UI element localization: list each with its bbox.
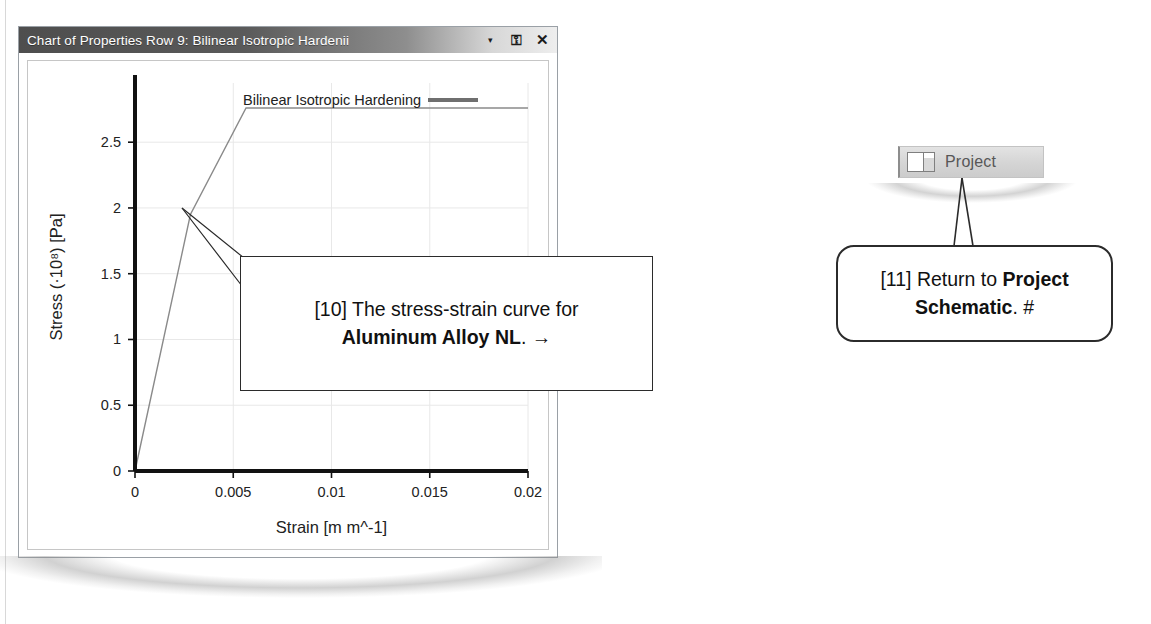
svg-text:Strain [m m^-1]: Strain [m m^-1]: [276, 518, 387, 536]
callout-chart-line1b: The stress-strain curve for: [352, 298, 578, 320]
callout-return-project-text: [11] Return to Project Schematic. #: [868, 266, 1080, 321]
svg-text:1.5: 1.5: [101, 266, 121, 282]
page-edge-rule: [5, 0, 6, 624]
close-button[interactable]: ✕: [529, 28, 555, 52]
callout-project-line1: Return to: [917, 268, 1003, 290]
scan-shadow-project: [866, 183, 1078, 221]
chart-window-title: Chart of Properties Row 9: Bilinear Isot…: [27, 33, 349, 48]
chevron-down-glyph: ▾: [488, 35, 493, 45]
project-callout-pointer: [930, 178, 1000, 248]
callout-chart-line1: [10]: [314, 298, 352, 320]
chart-titlebar: Chart of Properties Row 9: Bilinear Isot…: [19, 27, 557, 53]
svg-text:0.5: 0.5: [101, 397, 121, 413]
svg-text:0: 0: [113, 463, 121, 479]
close-icon: ✕: [536, 31, 549, 49]
svg-text:0.015: 0.015: [412, 484, 448, 500]
svg-text:0: 0: [131, 484, 139, 500]
svg-text:0.005: 0.005: [215, 484, 251, 500]
project-button-label: Project: [945, 153, 996, 171]
callout-project-bold1: Project: [1003, 268, 1069, 290]
svg-text:2: 2: [113, 200, 121, 216]
scan-shadow-bottom: [0, 556, 602, 612]
callout-stress-strain-text: [10] The stress-strain curve for Aluminu…: [300, 296, 592, 351]
chevron-down-icon[interactable]: ▾: [477, 28, 503, 52]
project-button[interactable]: Project: [898, 146, 1044, 178]
svg-text:0.02: 0.02: [514, 484, 542, 500]
svg-text:Stress (·10⁸) [Pa]: Stress (·10⁸) [Pa]: [47, 213, 65, 340]
callout-project-bold2: Schematic: [915, 296, 1013, 318]
callout-project-prefix: [11]: [880, 268, 917, 290]
titlebar-buttons: ▾ ⚿ ✕: [477, 28, 555, 52]
pin-icon: ⚿: [511, 32, 522, 49]
callout-return-project: [11] Return to Project Schematic. #: [836, 245, 1113, 342]
pin-button[interactable]: ⚿: [503, 28, 529, 52]
callout-chart-suffix: . →: [521, 326, 551, 348]
svg-text:Bilinear Isotropic Hardening: Bilinear Isotropic Hardening: [243, 92, 421, 108]
chart-legend: Bilinear Isotropic Hardening: [243, 92, 478, 108]
svg-text:0.01: 0.01: [317, 484, 345, 500]
callout-stress-strain: [10] The stress-strain curve for Aluminu…: [240, 256, 653, 391]
callout-project-suffix: . #: [1012, 296, 1034, 318]
callout-chart-bold: Aluminum Alloy NL: [342, 326, 521, 348]
split-pane-icon: [907, 152, 935, 172]
svg-text:2.5: 2.5: [101, 134, 121, 150]
svg-text:1: 1: [113, 331, 121, 347]
